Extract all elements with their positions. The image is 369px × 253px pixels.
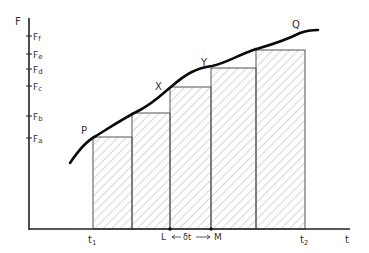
point-label-q: Q <box>292 19 300 30</box>
t1-label: t1 <box>88 234 96 247</box>
hatched-bar-1 <box>93 137 132 229</box>
y-tick-label: Fc <box>33 82 42 93</box>
hatched-bar-2 <box>132 113 170 229</box>
y-tick-label: Fa <box>33 134 42 145</box>
m-label: M <box>214 232 222 242</box>
y-tick-label: Fd <box>33 65 43 76</box>
y-tick-label: Ff <box>33 32 41 43</box>
hatched-bar-4 <box>211 68 256 229</box>
delta-t-label: δt <box>183 233 191 242</box>
y-tick-label: Fe <box>33 50 43 61</box>
hatched-bar-3 <box>170 87 211 229</box>
y-axis-label: F <box>15 16 21 27</box>
point-l-marker <box>168 227 172 231</box>
hatched-bar-5 <box>256 50 305 229</box>
diagram-canvas: FfFeFdFcFbFa F t P X Y Q t1 t2 L M δt <box>0 0 369 253</box>
point-m-marker <box>209 227 213 231</box>
t2-label: t2 <box>300 234 308 247</box>
x-axis-label: t <box>345 234 349 245</box>
y-tick-label: Fb <box>33 112 43 123</box>
l-label: L <box>161 232 166 242</box>
point-label-p: P <box>81 125 87 136</box>
integral-diagram: FfFeFdFcFbFa F t P X Y Q t1 t2 L M δt <box>0 0 369 253</box>
point-label-y: Y <box>200 57 208 68</box>
hatched-rectangles <box>93 50 305 229</box>
point-label-x: X <box>155 81 162 92</box>
